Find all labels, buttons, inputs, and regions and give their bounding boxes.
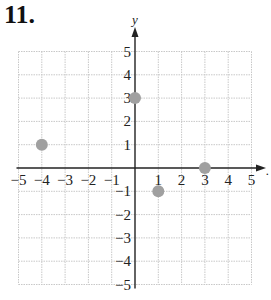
x-tick-label: −4 <box>34 172 50 188</box>
data-point <box>36 139 48 151</box>
y-tick-label: 1 <box>124 137 132 153</box>
y-tick-label: 5 <box>124 44 132 60</box>
y-tick-label: −4 <box>115 253 131 269</box>
y-tick-label: 2 <box>124 113 132 129</box>
x-tick-label: 4 <box>224 172 232 188</box>
y-tick-label: 4 <box>124 67 132 83</box>
x-tick-label: 5 <box>248 172 256 188</box>
data-point <box>152 185 164 197</box>
y-tick-label: −5 <box>115 277 131 293</box>
axes: y. <box>17 12 270 289</box>
data-point <box>129 92 141 104</box>
x-tick-label: −2 <box>80 172 96 188</box>
x-tick-label: 3 <box>201 172 209 188</box>
coordinate-plane: y. −5−4−3−2−112345−5−4−3−2−112345 <box>0 0 271 300</box>
data-point <box>199 162 211 174</box>
y-axis-arrow-icon <box>132 27 139 37</box>
x-tick-label: −5 <box>11 172 27 188</box>
y-tick-label: −1 <box>115 183 131 199</box>
y-tick-label: −3 <box>115 230 131 246</box>
x-axis-arrow-icon <box>256 165 266 172</box>
y-axis-label: y <box>130 12 138 27</box>
x-tick-label: −3 <box>57 172 73 188</box>
x-tick-label: 2 <box>178 172 186 188</box>
y-tick-label: −2 <box>115 207 131 223</box>
svg-text:.: . <box>266 163 269 178</box>
